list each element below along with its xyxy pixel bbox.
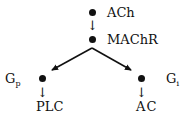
machr-label: MAChR — [107, 33, 158, 46]
ac-label: AC — [136, 100, 157, 113]
gi-node-dot — [138, 75, 145, 82]
gp-label: Gp — [5, 72, 21, 90]
ach-node-dot — [89, 9, 96, 16]
arrow-machr-to-gi — [92, 48, 131, 70]
down-arrow-icon: ↓ — [87, 19, 98, 32]
gi-label: Gi — [166, 72, 179, 90]
ach-label: ACh — [107, 6, 135, 19]
arrow-machr-to-gp — [52, 48, 92, 70]
gp-node-dot — [39, 75, 46, 82]
down-arrow-icon: ↓ — [37, 86, 48, 99]
plc-label: PLC — [36, 100, 63, 113]
down-arrow-icon: ↓ — [136, 86, 147, 99]
machr-node-dot — [89, 36, 96, 43]
